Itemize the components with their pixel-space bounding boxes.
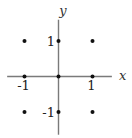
data-point	[91, 110, 95, 114]
data-point	[91, 39, 95, 43]
x-tick-label: -1	[17, 78, 30, 93]
data-point	[57, 110, 61, 114]
data-point	[57, 75, 61, 79]
data-point	[57, 39, 61, 43]
data-point	[23, 39, 27, 43]
x-tick-label: 1	[87, 78, 95, 93]
coordinate-plane-figure: xy-111-1	[0, 0, 132, 138]
data-point	[23, 110, 27, 114]
y-tick-label: -1	[42, 105, 55, 120]
x-axis-label: x	[119, 68, 127, 83]
data-point	[91, 75, 95, 79]
data-point	[23, 75, 27, 79]
scatter-plot: xy-111-1	[0, 0, 132, 138]
y-axis-label: y	[58, 3, 67, 18]
y-tick-label: 1	[47, 34, 55, 49]
